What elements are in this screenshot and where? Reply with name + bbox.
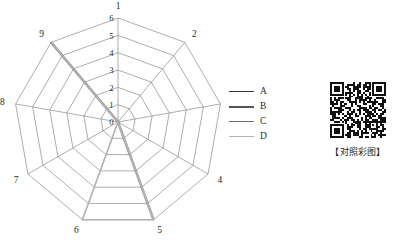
radar-spoke bbox=[118, 42, 185, 122]
radar-spoke bbox=[118, 122, 208, 174]
qr-caption: 【对照彩图】 bbox=[312, 145, 404, 158]
legend-item-label: C bbox=[260, 117, 266, 127]
legend-item-label: D bbox=[260, 132, 267, 142]
legend-item-label: A bbox=[260, 87, 267, 97]
legend-line-icon bbox=[229, 136, 254, 137]
radial-tick-label: 4 bbox=[109, 48, 114, 58]
radar-axis-label-6: 6 bbox=[74, 225, 79, 235]
radar-axis-label-7: 7 bbox=[14, 175, 19, 185]
radial-tick-label: 3 bbox=[109, 65, 113, 75]
legend-line-icon bbox=[229, 106, 254, 108]
radar-axis-label-4: 4 bbox=[218, 175, 223, 185]
qr-code-icon[interactable] bbox=[330, 82, 386, 138]
radar-axis-label-8: 8 bbox=[0, 97, 5, 107]
radial-tick-label: 5 bbox=[109, 31, 113, 41]
figure-root: 0123456 123456789 ABCD 【对照彩图】 bbox=[0, 0, 408, 249]
legend-line-icon bbox=[229, 91, 254, 92]
radar-spoke bbox=[16, 104, 118, 122]
legend-item[interactable]: B bbox=[229, 99, 289, 114]
chart-legend: ABCD bbox=[229, 84, 289, 144]
qr-code-block: 【对照彩图】 bbox=[312, 82, 404, 158]
radar-chart-svg: 0123456 123456789 bbox=[0, 0, 228, 249]
legend-item[interactable]: C bbox=[229, 114, 289, 129]
radar-axis-label-5: 5 bbox=[157, 225, 162, 235]
radial-tick-label: 2 bbox=[109, 83, 113, 93]
radial-tick-label: 6 bbox=[109, 13, 114, 23]
radar-axis-label-1: 1 bbox=[116, 1, 121, 11]
radial-tick-label: 1 bbox=[109, 100, 113, 110]
legend-line-icon bbox=[229, 121, 254, 122]
radar-spoke bbox=[28, 122, 118, 174]
radar-axis-label-9: 9 bbox=[39, 29, 44, 39]
legend-item[interactable]: D bbox=[229, 129, 289, 144]
radial-tick-label: 0 bbox=[109, 117, 113, 127]
radar-axis-label-2: 2 bbox=[192, 29, 197, 39]
radar-spoke bbox=[118, 104, 220, 122]
legend-item[interactable]: A bbox=[229, 84, 289, 99]
radar-tick-labels: 0123456 bbox=[109, 13, 114, 127]
radar-chart-panel: 0123456 123456789 bbox=[0, 0, 228, 249]
legend-item-label: B bbox=[260, 102, 266, 112]
